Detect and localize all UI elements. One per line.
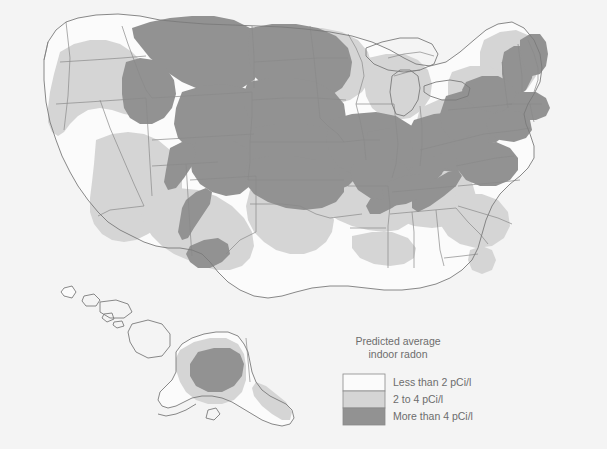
legend-label-high: More than 4 pCi/l: [393, 410, 473, 422]
legend-title-line-2: indoor radon: [369, 348, 428, 360]
us-radon-map: Predicted average indoor radon Less than…: [0, 0, 607, 449]
legend-title-line-1: Predicted average: [355, 335, 440, 347]
legend-label-low: Less than 2 pCi/l: [393, 376, 471, 388]
radon-map-figure: Predicted average indoor radon Less than…: [0, 0, 607, 449]
legend-swatch-high: [343, 408, 385, 425]
legend-label-mid: 2 to 4 pCi/l: [393, 393, 443, 405]
legend-swatch-mid: [343, 391, 385, 408]
legend-swatch-low: [343, 374, 385, 391]
